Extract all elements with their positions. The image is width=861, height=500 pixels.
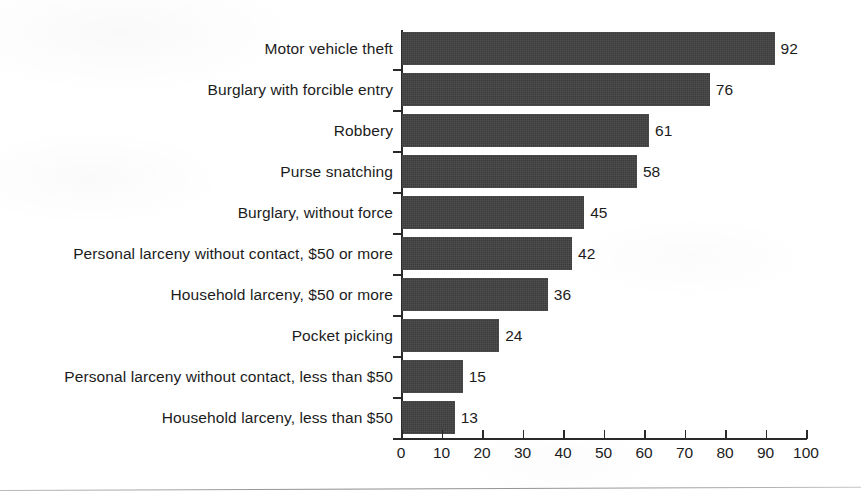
- category-label: Burglary, without force: [0, 196, 393, 229]
- x-axis-tick: [644, 430, 646, 439]
- bar: [402, 401, 455, 434]
- bar: [402, 73, 710, 106]
- bar-value-label: 92: [781, 32, 798, 65]
- category-label: Pocket picking: [0, 319, 393, 352]
- category-label: Burglary with forcible entry: [0, 73, 393, 106]
- bar-value-label: 13: [461, 401, 478, 434]
- x-axis-tick: [563, 430, 565, 439]
- x-axis-tick: [401, 430, 403, 439]
- bar-row: Purse snatching58: [0, 155, 861, 188]
- x-axis-tick: [482, 430, 484, 439]
- bar-row: Robbery61: [0, 114, 861, 147]
- bar-row: Motor vehicle theft92: [0, 32, 861, 65]
- x-axis-tick: [766, 430, 768, 439]
- x-axis-tick: [725, 430, 727, 439]
- bar-value-label: 76: [716, 73, 733, 106]
- bar-row: Personal larceny without contact, less t…: [0, 360, 861, 393]
- y-axis-tick: [393, 69, 402, 71]
- bar-row: Pocket picking24: [0, 319, 861, 352]
- x-axis-tick: [604, 430, 606, 439]
- bar: [402, 114, 649, 147]
- bar-value-label: 61: [655, 114, 672, 147]
- category-label: Motor vehicle theft: [0, 32, 393, 65]
- bar-value-label: 24: [505, 319, 522, 352]
- category-label: Personal larceny without contact, less t…: [0, 360, 393, 393]
- bar-row: Burglary with forcible entry76: [0, 73, 861, 106]
- bar-row: Burglary, without force45: [0, 196, 861, 229]
- y-axis-tick: [393, 233, 402, 235]
- bar-value-label: 58: [643, 155, 660, 188]
- category-label: Personal larceny without contact, $50 or…: [0, 237, 393, 270]
- x-axis-tick-label: 100: [781, 443, 831, 463]
- x-axis-tick: [442, 430, 444, 439]
- bar-value-label: 15: [469, 360, 486, 393]
- category-label: Purse snatching: [0, 155, 393, 188]
- bar: [402, 237, 572, 270]
- y-axis-tick: [393, 397, 402, 399]
- y-axis-tick: [393, 315, 402, 317]
- category-label: Household larceny, $50 or more: [0, 278, 393, 311]
- bar: [402, 155, 637, 188]
- bar-value-label: 36: [554, 278, 571, 311]
- bar-value-label: 42: [578, 237, 595, 270]
- y-axis-tick: [393, 110, 402, 112]
- bar: [402, 360, 463, 393]
- x-axis-tick: [685, 430, 687, 439]
- bar: [402, 32, 775, 65]
- bar: [402, 196, 584, 229]
- y-axis-tick: [393, 192, 402, 194]
- category-label: Robbery: [0, 114, 393, 147]
- y-axis-tick: [393, 274, 402, 276]
- y-axis-tick: [393, 356, 402, 358]
- category-label: Household larceny, less than $50: [0, 401, 393, 434]
- y-axis-tick: [393, 151, 402, 153]
- bar-row: Household larceny, less than $5013: [0, 401, 861, 434]
- bar: [402, 319, 499, 352]
- x-axis-tick: [523, 430, 525, 439]
- bar: [402, 278, 548, 311]
- bar-row: Household larceny, $50 or more36: [0, 278, 861, 311]
- bar-value-label: 45: [590, 196, 607, 229]
- x-axis-tick: [806, 430, 808, 439]
- bar-row: Personal larceny without contact, $50 or…: [0, 237, 861, 270]
- horizontal-bar-chart: Motor vehicle theft92Burglary with forci…: [0, 0, 861, 500]
